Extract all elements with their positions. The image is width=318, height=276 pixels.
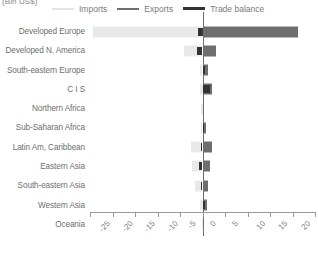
axis-tick-label: 20 (299, 219, 312, 232)
axis-tick-label: -5 (186, 219, 197, 230)
bar-exports[interactable] (203, 161, 211, 172)
legend-label: Trade balance (210, 4, 264, 14)
axis-tick (90, 212, 91, 217)
bars-container (90, 22, 315, 234)
bar-trade-balance[interactable] (198, 28, 203, 36)
legend-item-exports[interactable]: Exports (117, 4, 173, 14)
category-label: C I S (0, 80, 88, 99)
axis-tick (270, 212, 271, 217)
axis-tick (225, 212, 226, 217)
axis-tick-label: 5 (230, 219, 240, 229)
bar-trade-balance[interactable] (201, 182, 203, 190)
category-label: Western Asia (0, 195, 88, 214)
axis-tick-label: 10 (254, 219, 267, 232)
category-axis-labels: Developed EuropeDeveloped N. AmericaSout… (0, 22, 88, 234)
bar-exports[interactable] (203, 219, 205, 230)
category-label: Developed N. America (0, 41, 88, 60)
axis-tick (180, 212, 181, 217)
chart-plot-area: Developed EuropeDeveloped N. AmericaSout… (0, 22, 318, 244)
bar-trade-balance[interactable] (199, 162, 202, 170)
axis-tick (203, 212, 204, 217)
bar-trade-balance[interactable] (203, 66, 206, 74)
axis-tick (248, 212, 249, 217)
legend-item-trade-balance[interactable]: Trade balance (183, 4, 264, 14)
axis-tick-label: 15 (277, 219, 290, 232)
axis-tick (315, 212, 316, 217)
category-label: South-eastern Asia (0, 176, 88, 195)
category-label: Oceania (0, 215, 88, 234)
chart-legend: Imports Exports Trade balance (52, 2, 316, 15)
axis-tick (293, 212, 294, 217)
axis-tick-label: -15 (142, 219, 157, 234)
category-label: Northern Africa (0, 99, 88, 118)
bar-trade-balance[interactable] (203, 201, 205, 209)
category-label: South-eastern Europe (0, 61, 88, 80)
bar-trade-balance[interactable] (203, 124, 205, 132)
axis-tick-label: 0 (208, 219, 218, 229)
bar-exports[interactable] (203, 103, 205, 114)
legend-item-imports[interactable]: Imports (52, 4, 107, 14)
line-swatch-icon (117, 8, 139, 10)
axis-tick-label: -20 (120, 219, 135, 234)
bar-exports[interactable] (203, 45, 217, 56)
bar-exports[interactable] (203, 180, 208, 191)
axis-tick (113, 212, 114, 217)
axis-tick (158, 212, 159, 217)
bar-exports[interactable] (203, 142, 213, 153)
category-label: Sub-Saharan Africa (0, 118, 88, 137)
category-label: Latin Am, Caribbean (0, 138, 88, 157)
axis-tick-label: -10 (165, 219, 180, 234)
line-swatch-icon (183, 7, 205, 10)
category-label: Eastern Asia (0, 157, 88, 176)
category-label: Developed Europe (0, 22, 88, 41)
legend-label: Exports (144, 4, 173, 14)
bar-trade-balance[interactable] (201, 143, 203, 151)
axis-unit-label: (Bln US$) (2, 0, 38, 6)
axis-tick-label: -25 (97, 219, 112, 234)
axis-tick (135, 212, 136, 217)
bar-trade-balance[interactable] (203, 85, 210, 93)
line-swatch-icon (52, 8, 74, 10)
legend-label: Imports (79, 4, 107, 14)
bar-exports[interactable] (203, 26, 299, 37)
bar-trade-balance[interactable] (197, 47, 202, 55)
bar-imports[interactable] (93, 26, 202, 37)
